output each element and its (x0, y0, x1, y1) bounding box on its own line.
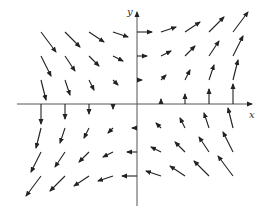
field-arrow (223, 132, 233, 152)
field-arrow (65, 32, 80, 47)
field-arrow (151, 147, 161, 152)
field-arrow (185, 46, 195, 56)
field-arrow (233, 12, 248, 32)
field-arrow (199, 137, 209, 152)
field-arrow (113, 80, 118, 85)
field-arrow (31, 152, 41, 172)
field-arrow (194, 161, 209, 176)
field-arrow (74, 176, 89, 186)
field-arrow (84, 128, 89, 138)
field-arrow (113, 32, 128, 37)
field-arrow (209, 65, 214, 80)
vector-field-plot (0, 0, 268, 211)
field-arrow (60, 128, 65, 143)
field-arrow (209, 41, 219, 56)
field-arrow (185, 22, 200, 32)
vector-field-diagram: x y (0, 0, 268, 211)
field-arrow (41, 32, 56, 52)
field-arrow (108, 128, 113, 133)
field-arrow (113, 56, 123, 61)
x-axis-label: x (249, 109, 255, 120)
field-arrow (161, 51, 171, 56)
axes (17, 12, 252, 206)
field-arrow (180, 118, 185, 128)
field-arrow (228, 108, 233, 128)
field-arrow (170, 166, 185, 176)
field-arrow (161, 75, 166, 80)
field-arrow (103, 152, 113, 157)
field-arrow (26, 176, 41, 196)
field-arrow (98, 176, 113, 181)
y-axis-label: y (127, 6, 133, 17)
field-arrow (218, 156, 233, 176)
field-arrow (204, 113, 209, 128)
field-arrow (233, 36, 243, 56)
field-arrow (65, 80, 70, 95)
field-arrow (55, 152, 65, 167)
field-arrow (89, 80, 94, 90)
field-arrow (175, 142, 185, 152)
field-arrow (36, 128, 41, 148)
field-arrow (41, 56, 51, 76)
field-arrow (185, 70, 190, 80)
field-arrow (156, 123, 161, 128)
field-arrow (209, 17, 224, 32)
field-arrow (89, 32, 104, 42)
field-arrow (79, 152, 89, 162)
field-arrow (161, 27, 176, 32)
field-arrow (65, 56, 75, 71)
field-arrow (41, 80, 46, 100)
field-arrow (146, 171, 161, 176)
field-arrow (50, 176, 65, 191)
field-arrow (233, 60, 238, 80)
field-arrow (89, 56, 99, 66)
